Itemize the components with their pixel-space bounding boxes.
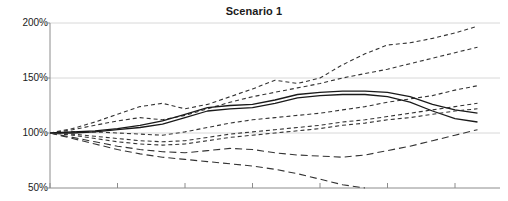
- x-axis-ticks: [50, 183, 455, 188]
- series-line: [50, 95, 478, 134]
- y-axis-ticks: [46, 23, 50, 188]
- series-line: [50, 103, 478, 142]
- series-line: [50, 91, 478, 133]
- data-series-lines: [50, 26, 478, 188]
- gridlines: [50, 23, 500, 133]
- chart-container: Scenario 1 50%100%150%200%: [0, 0, 508, 201]
- series-line: [50, 133, 365, 188]
- series-line: [50, 47, 478, 133]
- axis-lines: [50, 23, 500, 188]
- series-line: [50, 130, 478, 158]
- series-line: [50, 109, 478, 145]
- series-line: [50, 86, 478, 136]
- chart-plot-area: [0, 0, 508, 201]
